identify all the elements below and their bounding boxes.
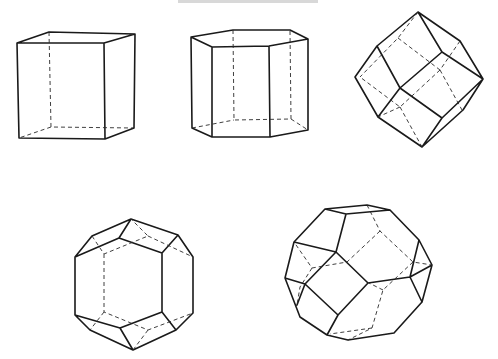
truncated-visible-edges [285,205,432,340]
elongated-visible-edges [75,219,193,350]
rhombic-dodecahedron-shape [355,12,483,147]
polyhedra-figure [0,0,498,359]
rhombic-visible-edges [355,12,483,147]
hexagonal-prism-shape [191,30,308,137]
cube-visible-edges [17,32,135,139]
elongated-dodecahedron-shape [75,219,193,350]
cube-shape [17,32,135,139]
truncated-octahedron-shape [285,205,432,340]
cube-hidden-edges [19,32,134,138]
elongated-hidden-edges [90,219,193,350]
